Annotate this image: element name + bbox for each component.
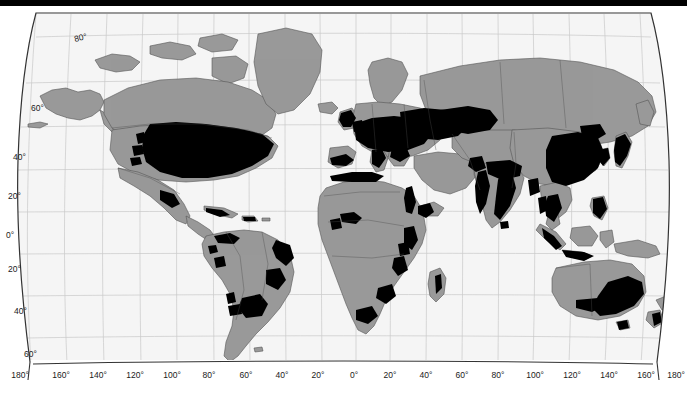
longitude-label-180e: 180°	[667, 370, 685, 380]
latitude-label-0: 0°	[6, 230, 14, 240]
longitude-label-40w: 40°	[276, 370, 289, 380]
highlight-andean-peru	[214, 256, 226, 268]
highlight-ukraine-russia-west	[438, 106, 498, 134]
highlight-sri-lanka	[500, 221, 509, 229]
longitude-label-60w: 60°	[240, 370, 253, 380]
latitude-label-40n: 40°	[13, 152, 26, 162]
longitude-label-140w: 140°	[89, 370, 107, 380]
longitude-label-100w: 100°	[163, 370, 181, 380]
highlight-benelux-strip	[352, 120, 364, 132]
longitude-label-100e: 100°	[526, 370, 544, 380]
highlight-great-lakes-strip-2	[132, 145, 144, 156]
highlight-hispaniola	[243, 217, 256, 221]
longitude-label-80w: 80°	[203, 370, 216, 380]
longitude-label-80e: 80°	[492, 370, 505, 380]
longitude-label-60e: 60°	[456, 370, 469, 380]
latitude-label-20s: 20°	[8, 264, 21, 274]
longitude-label-180w: 180°	[11, 370, 29, 380]
land-falklands	[254, 347, 263, 352]
longitude-labels: 180° 160° 140° 120° 100° 80° 60° 40° 20°…	[11, 370, 685, 380]
latitude-label-40s: 40°	[14, 306, 27, 316]
longitude-label-40e: 40°	[420, 370, 433, 380]
land-puerto-rico	[262, 218, 270, 221]
latitude-label-20n: 20°	[8, 191, 21, 201]
longitude-label-20w: 20°	[312, 370, 325, 380]
longitude-label-140e: 140°	[600, 370, 618, 380]
longitude-label-120w: 120°	[126, 370, 144, 380]
latitude-label-60s: 60°	[24, 349, 37, 359]
longitude-label-160w: 160°	[52, 370, 70, 380]
longitude-label-160e: 160°	[637, 370, 655, 380]
world-distribution-map-figure: 80° 60° 40° 20° 0° 20° 40° 60° 180° 160°…	[0, 0, 687, 393]
longitude-label-0: 0°	[350, 370, 358, 380]
longitude-label-20e: 20°	[384, 370, 397, 380]
longitude-label-120e: 120°	[563, 370, 581, 380]
highlight-gulf-of-guinea	[330, 218, 342, 230]
latitude-label-60n: 60°	[31, 103, 44, 113]
map-canvas: 80° 60° 40° 20° 0° 20° 40° 60° 180° 160°…	[0, 0, 687, 393]
highlight-lake-victoria	[398, 242, 410, 256]
